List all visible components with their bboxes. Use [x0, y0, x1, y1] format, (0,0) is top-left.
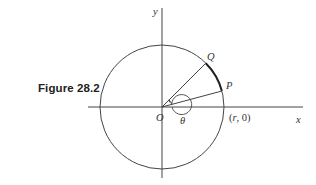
origin-label: O — [156, 112, 164, 123]
x-axis-label: x — [295, 114, 301, 125]
theta-label: θ — [180, 115, 185, 126]
point-q-label: Q — [207, 51, 215, 62]
point-r0-label: (r, 0) — [229, 112, 251, 124]
unit-circle-diagram: y x Q P O θ (r, 0) — [0, 0, 316, 185]
point-p-label: P — [225, 80, 233, 91]
y-axis-label: y — [152, 6, 158, 17]
arc-pq — [206, 63, 222, 91]
theta-arc — [172, 95, 192, 115]
